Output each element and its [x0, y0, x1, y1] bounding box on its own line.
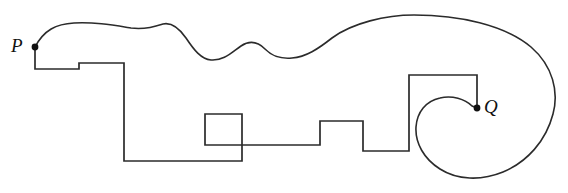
- point-p-label: P: [11, 36, 23, 55]
- point-q-marker: [474, 105, 481, 112]
- line-drawing-svg: [0, 0, 568, 193]
- figure-background: [0, 0, 568, 193]
- point-p-marker: [32, 44, 39, 51]
- figure-canvas: P Q: [0, 0, 568, 193]
- point-q-label: Q: [484, 97, 498, 116]
